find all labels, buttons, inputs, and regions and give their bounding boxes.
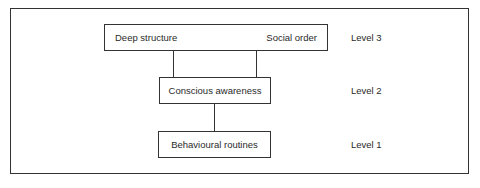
connector-conscious-awareness-to-behavioural-routines — [214, 104, 215, 131]
level-2-box: Conscious awareness — [159, 77, 271, 104]
level-1-label: Level 1 — [351, 139, 382, 150]
behavioural-routines-label: Behavioural routines — [171, 139, 258, 150]
connector-deep-structure-to-conscious-awareness — [173, 51, 174, 77]
level-3-box: Deep structure Social order — [104, 24, 328, 51]
social-order-label: Social order — [266, 32, 317, 43]
conscious-awareness-label: Conscious awareness — [169, 85, 262, 96]
level-1-box: Behavioural routines — [158, 131, 271, 158]
connector-social-order-to-conscious-awareness — [256, 51, 257, 77]
deep-structure-label: Deep structure — [115, 32, 177, 43]
level-2-label: Level 2 — [351, 85, 382, 96]
level-3-label: Level 3 — [351, 32, 382, 43]
